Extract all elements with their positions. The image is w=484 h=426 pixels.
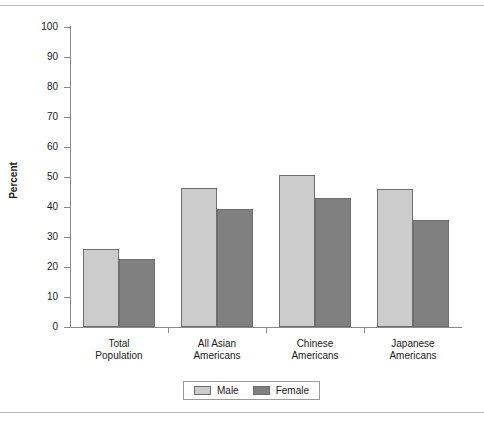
x-axis-category-label-line: Americans [353, 350, 473, 362]
legend-item-female: Female [253, 385, 309, 396]
y-axis-tick [64, 57, 70, 58]
y-axis-tick-label: 40 [24, 202, 58, 212]
bar-female-3 [413, 220, 449, 327]
legend-swatch-male-icon [194, 386, 211, 395]
y-axis-tick [64, 207, 70, 208]
x-axis-category-label: JapaneseAmericans [353, 338, 473, 362]
y-axis-tick-label: 50 [24, 172, 58, 182]
y-axis-title: Percent [8, 151, 19, 211]
y-axis-tick-label: 100 [24, 22, 58, 32]
y-axis-tick-label: 60 [24, 142, 58, 152]
y-axis-tick-label: 80 [24, 82, 58, 92]
y-axis-tick-label: 10 [24, 292, 58, 302]
y-axis-tick [64, 117, 70, 118]
bar-male-2 [279, 175, 315, 327]
y-axis-tick [64, 147, 70, 148]
bar-male-3 [377, 189, 413, 327]
y-axis-tick-label: 20 [24, 262, 58, 272]
y-axis-tick [64, 297, 70, 298]
legend-label-male: Male [217, 385, 239, 396]
legend-label-female: Female [276, 385, 309, 396]
bar-male-1 [181, 188, 217, 327]
y-axis-tick [64, 27, 70, 28]
bar-female-0 [119, 259, 155, 327]
y-axis-line [70, 26, 71, 328]
legend-item-male: Male [194, 385, 239, 396]
y-axis-tick [64, 327, 70, 328]
x-axis-tick [266, 328, 267, 333]
y-axis-tick-label: 90 [24, 52, 58, 62]
bar-chart-plot: Percent 1009080706050403020100TotalPopul… [0, 0, 484, 426]
legend-swatch-female-icon [253, 386, 270, 395]
chart-page: Percent 1009080706050403020100TotalPopul… [0, 0, 484, 426]
y-axis-tick-label: 70 [24, 112, 58, 122]
x-axis-tick [168, 328, 169, 333]
bar-female-1 [217, 209, 253, 327]
bar-male-0 [83, 249, 119, 327]
y-axis-tick [64, 267, 70, 268]
chart-legend: Male Female [183, 381, 320, 400]
x-axis-category-label-line: Japanese [353, 338, 473, 350]
x-axis-tick [364, 328, 365, 333]
y-axis-tick-label: 30 [24, 232, 58, 242]
bar-female-2 [315, 198, 351, 327]
y-axis-tick [64, 87, 70, 88]
y-axis-tick [64, 177, 70, 178]
y-axis-tick [64, 237, 70, 238]
y-axis-tick-label: 0 [24, 322, 58, 332]
